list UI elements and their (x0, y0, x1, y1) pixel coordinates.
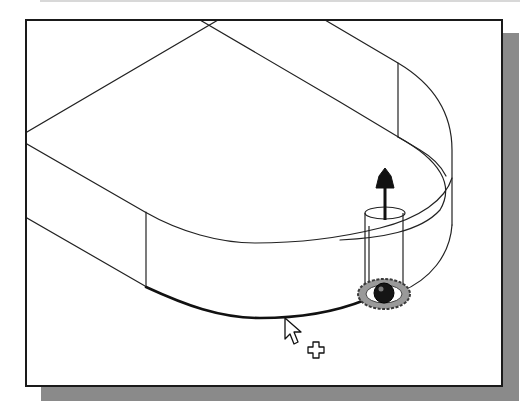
edge-upper-front (27, 144, 452, 243)
top-border-strip (40, 0, 520, 2)
sphere-highlight (379, 287, 384, 292)
edge-long-diagonal (200, 20, 446, 176)
drag-arrow-icon (376, 168, 394, 220)
edge-top-right (325, 20, 452, 225)
mouse-cursor-icon (285, 318, 301, 344)
wireframe-model (25, 19, 503, 387)
edge-top-left (27, 20, 218, 132)
graphics-viewport[interactable]: Graphics window (25, 19, 503, 387)
edge-lower-right-arc (400, 225, 452, 292)
edge-lower-left (27, 218, 145, 286)
manipulator-sphere-icon (374, 283, 394, 303)
selected-edge-bottom (146, 287, 365, 318)
plus-cursor-icon (308, 342, 324, 358)
